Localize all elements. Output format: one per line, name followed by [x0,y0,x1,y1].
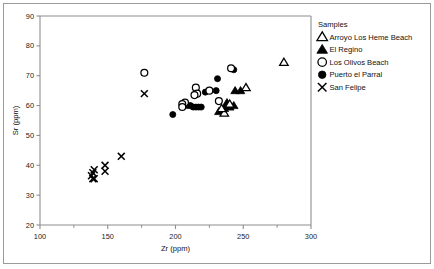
data-point [179,104,186,111]
data-point [280,58,289,65]
data-point [141,69,148,76]
legend-item-label: Puerto el Parral [330,70,383,79]
data-point [118,153,125,160]
y-tick-label: 80 [26,41,34,50]
series-los-olivos-beach [141,65,235,111]
legend-item[interactable]: Arroyo Los Heme Beach [317,32,412,42]
legend-item-label: El Regino [330,45,363,54]
x-tick-label: 200 [169,232,181,241]
data-point [198,104,204,110]
axes-group [37,16,312,229]
data-point [242,84,251,91]
x-tick-label: 300 [305,232,317,241]
filled-triangle-icon [317,44,328,53]
cross-icon [318,83,327,92]
x-tick-label: 100 [34,232,46,241]
x-axis-title: Zr (ppm) [161,244,191,253]
y-tick-label: 20 [26,221,34,230]
series-san-felipe [88,90,148,182]
legend-item[interactable]: Puerto el Parral [318,70,382,79]
data-point [213,88,219,94]
legend-item-label: San Felipe [330,83,366,92]
legend-title: Samples [318,20,348,29]
data-point [191,92,198,99]
y-tick-label: 30 [26,191,34,200]
data-points-group [88,58,288,182]
data-point [215,98,222,105]
data-point [206,87,213,94]
y-tick-label: 40 [26,161,34,170]
data-point [102,168,109,175]
data-point [214,76,220,82]
axis-labels-group: 2030405060708090100150200250300Zr (ppm)S… [11,12,317,253]
y-tick-label: 90 [26,12,34,21]
figure-container: 2030405060708090100150200250300Zr (ppm)S… [0,0,434,269]
data-point [102,162,109,169]
y-axis-title: Sr (ppm) [11,105,20,135]
open-circle-icon [318,58,327,67]
y-tick-label: 60 [26,101,34,110]
legend-item-label: Arroyo Los Heme Beach [330,33,413,42]
y-tick-label: 70 [26,71,34,80]
x-tick-label: 150 [102,232,114,241]
data-point [141,90,148,97]
legend-item[interactable]: El Regino [317,44,363,54]
data-point [170,111,176,117]
data-point [228,65,235,72]
legend-item[interactable]: Los Olivos Beach [318,58,389,67]
x-tick-label: 250 [237,232,249,241]
filled-circle-icon [318,71,326,79]
open-triangle-icon [317,32,328,41]
scatter-plot: 2030405060708090100150200250300Zr (ppm)S… [0,0,434,269]
legend-item[interactable]: San Felipe [318,83,366,92]
legend-item-label: Los Olivos Beach [330,58,389,67]
legend: SamplesArroyo Los Heme BeachEl ReginoLos… [317,20,412,92]
y-tick-label: 50 [26,131,34,140]
